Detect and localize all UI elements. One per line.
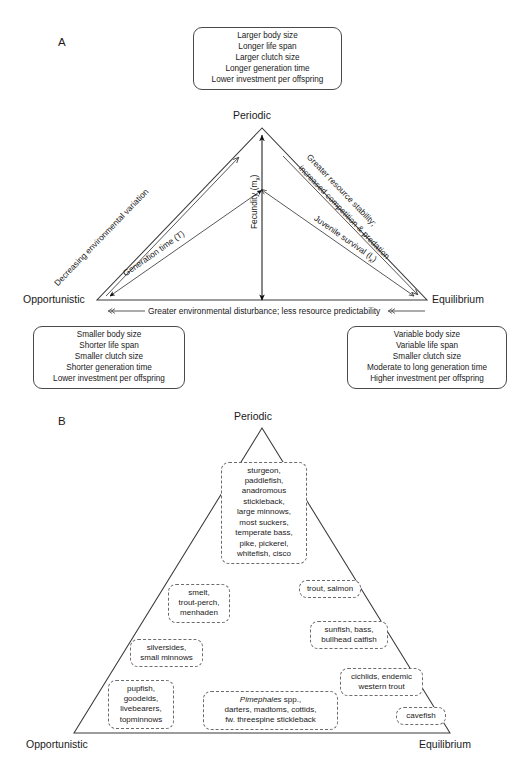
axis-label-fecundity-sub: x [254,177,261,180]
taxa-line: trout-perch, [174,598,224,608]
trait-line: Smaller clutch size [41,352,177,363]
taxa-line: paddlefish, [227,476,301,486]
taxa-line: cavefish [402,711,440,721]
life-history-triangle-figure: A Larger body size Longer life span Larg… [0,0,525,771]
panel-a-letter: A [58,36,66,48]
panel-b-letter: B [58,415,66,427]
trait-line: Higher investment per offspring [355,374,499,385]
panel-a-equilibrium-traits-box: Variable body size Variable life span Sm… [347,326,507,389]
taxa-line: smelt, [174,588,224,598]
taxa-box-trout-salmon: trout, salmon [299,580,361,598]
panel-b-vertex-opportunistic: Opportunistic [26,738,88,750]
trait-line: Shorter life span [41,341,177,352]
taxa-box-sunfish-group: sunfish, bass, bullhead catfish [310,621,388,649]
trait-line: Smaller body size [41,330,177,341]
taxa-line-pimephales: Pimephales spp., [209,695,332,705]
taxa-line: most suckers, [227,518,301,528]
panel-a-vertex-periodic: Periodic [233,109,271,121]
panel-b-vertex-equilibrium: Equilibrium [419,738,471,750]
taxa-box-silversides-group: silversides, small minnows [130,639,203,667]
taxa-line: sunfish, bass, [316,625,382,635]
taxa-line: temperate bass, [227,528,301,538]
axis-label-fecundity-text: Fecundity (m [249,181,259,229]
taxa-box-pupfish-group: pupfish, goodeids, livebearers, topminno… [108,680,174,729]
taxa-line: sturgeon, [227,466,301,476]
taxa-box-periodic-core: sturgeon, paddlefish, anadromous stickle… [221,462,307,564]
trait-line: Variable body size [355,330,499,341]
taxa-line-pimephales-rest: spp., [282,695,302,704]
trait-line: Larger clutch size [201,53,334,64]
trait-line: Smaller clutch size [355,352,499,363]
axis-label-fecundity: Fecundity (mx) [249,175,261,229]
trait-line: Longer life span [201,42,334,53]
axis-label-generation-time: Generation time (T) [121,228,186,278]
panel-a-periodic-traits-box: Larger body size Longer life span Larger… [193,27,342,90]
axis-label-fecundity-tail: ) [249,175,259,178]
taxa-box-pimephales-group: Pimephales spp., darters, madtoms, cotti… [203,691,338,730]
trait-line: Moderate to long generation time [355,363,499,374]
trait-line: Shorter generation time [41,363,177,374]
taxa-line: darters, madtoms, cottids, [209,705,332,715]
taxa-line: cichlids, endemic [346,672,417,682]
taxa-line: large minnows, [227,507,301,517]
panel-a-opportunistic-traits-box: Smaller body size Shorter life span Smal… [33,326,185,389]
trait-line: Larger body size [201,31,334,42]
taxa-line: goodeids, [114,694,168,704]
panel-b-vertex-periodic: Periodic [234,410,272,422]
taxa-line: whitefish, cisco [227,549,301,559]
trait-line: Lower investment per offspring [41,374,177,385]
taxa-line: topminnows [114,715,168,725]
taxa-line: small minnows [136,653,197,663]
taxa-box-cichlids-group: cichlids, endemic western trout [340,668,423,696]
axis-label-juvenile-survival-tail: ) [371,254,379,264]
panel-a-triangle [97,128,427,300]
taxa-genus-italic: Pimephales [240,695,282,704]
taxa-line: stickleback, [227,497,301,507]
trait-line: Variable life span [355,341,499,352]
taxa-line: trout, salmon [305,584,355,594]
taxa-line: western trout [346,682,417,692]
taxa-line: pupfish, [114,684,168,694]
taxa-box-smelt-group: smelt, trout-perch, menhaden [168,584,230,623]
trait-line: Longer generation time [201,64,334,75]
taxa-line: bullhead catfish [316,635,382,645]
axis-label-environmental-disturbance: Greater environmental disturbance; less … [148,306,380,316]
trait-line: Lower investment per offspring [201,75,334,86]
taxa-line: fw. threespine stickleback [209,715,332,725]
taxa-line: silversides, [136,643,197,653]
panel-a-vertex-equilibrium: Equilibrium [432,293,484,305]
panel-a-vertex-opportunistic: Opportunistic [23,293,85,305]
taxa-line: livebearers, [114,704,168,714]
taxa-box-cavefish: cavefish [396,707,446,725]
taxa-line: pike, pickerel, [227,539,301,549]
taxa-line: anadromous [227,486,301,496]
axis-label-decreasing-env-variation: Decreasing environmental variation [52,187,150,288]
taxa-line: menhaden [174,608,224,618]
